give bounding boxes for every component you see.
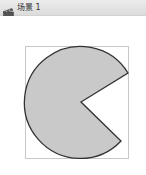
stage-drawing xyxy=(0,16,146,175)
scene-title-bar: 场景 1 xyxy=(0,0,146,16)
scene-clapper-icon xyxy=(3,3,14,13)
stage-canvas[interactable] xyxy=(0,16,146,175)
scene-title: 场景 1 xyxy=(17,3,41,13)
pie-shape[interactable] xyxy=(24,46,128,158)
